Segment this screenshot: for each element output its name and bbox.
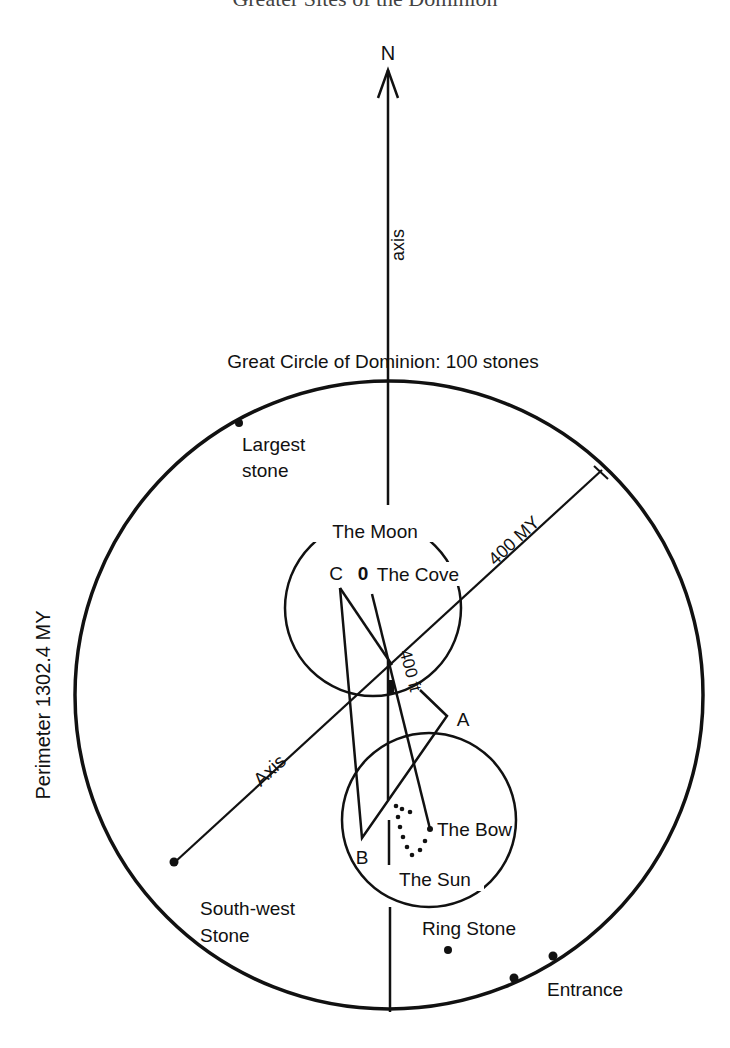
circle-title: Great Circle of Dominion: 100 stones [227,351,539,372]
largest-stone-label-2: stone [242,460,288,481]
perimeter-label: Perimeter 1302.4 MY [32,611,54,800]
cove-label: The Cove [377,564,459,585]
moon-label: The Moon [332,521,418,542]
ring-stone-marker [444,946,452,954]
inner-distance-label: 400 ft [396,648,425,694]
point-a-label: A [457,709,470,730]
sun-label: The Sun [399,869,471,890]
point-c-label: C [329,563,343,584]
north-axis-label: axis [388,229,408,261]
stone-circle-diagram: N axis Great Circle of Dominion: 100 sto… [0,0,730,1048]
center-marker-icon [387,680,394,694]
entrance-stone-marker-2 [549,952,558,961]
bow-dotted-shape [394,804,433,858]
entrance-stone-marker-1 [510,974,519,983]
north-arrow-icon [378,70,398,505]
triangle-cba [340,588,447,838]
moon-circle [285,520,461,696]
diagonal-axis-label: Axis [249,750,290,790]
largest-stone-label-1: Largest [242,434,306,455]
origin-label: 0 [358,563,369,584]
bow-label: The Bow [437,819,512,840]
entrance-label: Entrance [547,979,623,1000]
point-b-label: B [356,847,369,868]
ring-stone-label: Ring Stone [422,918,516,939]
radius-label: 400 MY [484,512,543,569]
north-label: N [381,42,395,64]
south-west-stone-label-2: Stone [200,925,250,946]
south-west-stone-label-1: South-west [200,898,296,919]
south-west-stone-marker [170,858,179,867]
largest-stone-marker [235,419,243,427]
cove-bow-line [372,594,430,829]
